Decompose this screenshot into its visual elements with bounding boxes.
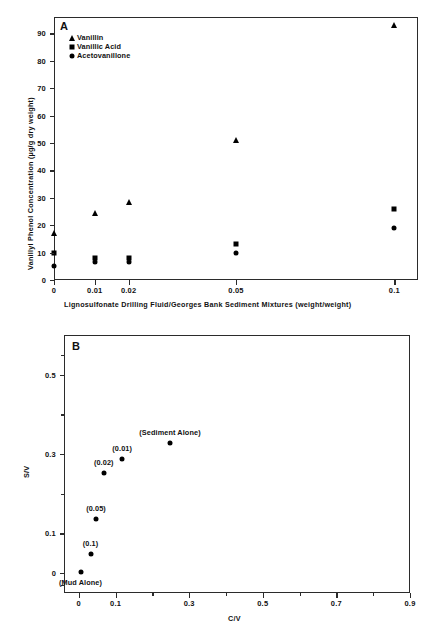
x-tick-label: 0.01 bbox=[87, 286, 102, 295]
legend-marker-square bbox=[68, 42, 77, 51]
y-tick bbox=[60, 375, 65, 376]
x-tick bbox=[95, 280, 96, 285]
circle-marker bbox=[126, 260, 131, 265]
triangle-marker bbox=[69, 35, 75, 41]
circle-marker bbox=[120, 457, 125, 462]
y-tick-label: 0.1 bbox=[32, 529, 56, 538]
legend-label: Vanillin bbox=[77, 33, 103, 42]
y-tick bbox=[50, 198, 55, 199]
x-tick-label: 0.1 bbox=[389, 286, 400, 295]
panel-a-y-axis-title: Vanillyl Phenol Concentration (µg/g dry … bbox=[26, 97, 35, 270]
x-tick-label: 0.3 bbox=[184, 599, 195, 608]
legend-item-acetovanillone: Acetovanillone bbox=[68, 51, 130, 60]
y-tick bbox=[50, 88, 55, 89]
circle-marker bbox=[52, 264, 57, 269]
triangle-marker bbox=[233, 137, 239, 143]
circle-marker bbox=[101, 470, 106, 475]
x-tick bbox=[263, 593, 264, 598]
legend-label: Vanillic Acid bbox=[77, 42, 121, 51]
point-label: (0.02) bbox=[94, 458, 114, 467]
circle-marker bbox=[168, 440, 173, 445]
x-tick bbox=[116, 593, 117, 598]
triangle-marker bbox=[391, 22, 397, 28]
y-tick bbox=[60, 454, 65, 455]
legend-marker-circle bbox=[68, 51, 77, 60]
point-label: (Mud Alone) bbox=[59, 578, 102, 587]
triangle-marker bbox=[51, 230, 57, 236]
y-tick-label: 0.3 bbox=[32, 450, 56, 459]
x-tick-minor bbox=[373, 593, 374, 596]
y-tick-label: 80 bbox=[24, 56, 46, 65]
x-tick bbox=[189, 593, 190, 598]
triangle-marker bbox=[92, 210, 98, 216]
x-tick-label: 0.1 bbox=[110, 599, 121, 608]
panel-b-y-axis-title: S/V bbox=[22, 466, 31, 478]
circle-marker bbox=[94, 516, 99, 521]
x-tick-minor bbox=[300, 593, 301, 596]
x-tick bbox=[336, 593, 337, 598]
circle-marker bbox=[88, 552, 93, 557]
panel-a-letter: A bbox=[60, 20, 68, 32]
point-label: (0.05) bbox=[86, 504, 106, 513]
x-tick-minor bbox=[226, 593, 227, 596]
legend-label: Acetovanillone bbox=[77, 51, 130, 60]
y-tick bbox=[50, 116, 55, 117]
panel-a-x-axis-title: Lignosulfonate Drilling Fluid/Georges Ba… bbox=[64, 300, 351, 309]
x-tick bbox=[129, 280, 130, 285]
y-tick bbox=[50, 61, 55, 62]
figure-root: A VanillinVanillic AcidAcetovanillone 00… bbox=[0, 0, 422, 629]
panel-a-legend: VanillinVanillic AcidAcetovanillone bbox=[68, 33, 130, 60]
x-tick bbox=[54, 280, 55, 285]
y-tick-minor bbox=[61, 585, 64, 586]
x-tick-label: 0 bbox=[52, 286, 56, 295]
x-tick bbox=[410, 593, 411, 598]
x-tick-label: 0.7 bbox=[331, 599, 342, 608]
x-tick-label: 0.05 bbox=[228, 286, 243, 295]
point-label: (0.01) bbox=[112, 444, 132, 453]
y-tick-minor bbox=[61, 494, 64, 495]
y-tick bbox=[50, 33, 55, 34]
legend-item-vanillic-acid: Vanillic Acid bbox=[68, 42, 130, 51]
square-marker bbox=[392, 206, 397, 211]
y-tick-label: 70 bbox=[24, 84, 46, 93]
y-tick bbox=[60, 533, 65, 534]
square-marker bbox=[234, 242, 239, 247]
triangle-marker bbox=[126, 199, 132, 205]
circle-marker bbox=[234, 250, 239, 255]
y-tick-label: 0.5 bbox=[32, 370, 56, 379]
y-tick bbox=[50, 280, 55, 281]
y-tick bbox=[50, 225, 55, 226]
square-marker bbox=[70, 45, 75, 50]
circle-marker bbox=[70, 54, 75, 59]
x-tick bbox=[236, 280, 237, 285]
y-tick-label: 90 bbox=[24, 29, 46, 38]
y-tick-label: 0 bbox=[32, 569, 56, 578]
x-tick-minor bbox=[152, 593, 153, 596]
x-tick bbox=[79, 593, 80, 598]
circle-marker bbox=[92, 260, 97, 265]
x-tick-label: 0.5 bbox=[257, 599, 268, 608]
x-tick-label: 0 bbox=[77, 599, 81, 608]
y-tick-label: 0 bbox=[24, 276, 46, 285]
point-label: (0.1) bbox=[83, 539, 99, 548]
y-tick bbox=[60, 573, 65, 574]
y-tick bbox=[50, 143, 55, 144]
y-tick-minor bbox=[61, 355, 64, 356]
x-tick-label: 0.9 bbox=[404, 599, 415, 608]
legend-marker-triangle bbox=[68, 33, 77, 42]
y-tick bbox=[50, 170, 55, 171]
panel-b-x-axis-title: C/V bbox=[228, 614, 241, 623]
y-tick-minor bbox=[61, 414, 64, 415]
legend-item-vanillin: Vanillin bbox=[68, 33, 130, 42]
x-tick-label: 0.02 bbox=[121, 286, 136, 295]
y-tick bbox=[50, 253, 55, 254]
x-tick bbox=[394, 280, 395, 285]
panel-b-plot-area bbox=[64, 335, 410, 593]
circle-marker bbox=[78, 569, 83, 574]
circle-marker bbox=[392, 225, 397, 230]
panel-b-letter: B bbox=[72, 340, 80, 352]
point-label: (Sediment Alone) bbox=[139, 428, 200, 437]
